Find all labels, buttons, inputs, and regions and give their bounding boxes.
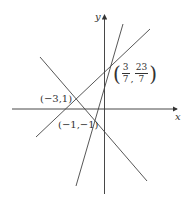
coordinate-plane xyxy=(0,0,191,206)
open-paren: ( xyxy=(113,62,121,86)
point-label-neg1-neg1: (−1,−1) xyxy=(58,120,98,130)
separator: , xyxy=(131,73,134,84)
y-axis-label: y xyxy=(95,12,101,22)
x-axis-label: x xyxy=(175,112,181,122)
x-fraction: 37 xyxy=(122,63,130,84)
line-3 xyxy=(76,24,123,186)
point-label-neg3-1: (−3,1) xyxy=(40,94,72,104)
diagram-canvas: y x (−3,1) (−1,−1) (37,237) xyxy=(0,0,191,206)
y-fraction: 237 xyxy=(135,63,148,84)
point-label-3-7-23-7: (37,237) xyxy=(113,63,157,84)
close-paren: ) xyxy=(149,62,157,86)
